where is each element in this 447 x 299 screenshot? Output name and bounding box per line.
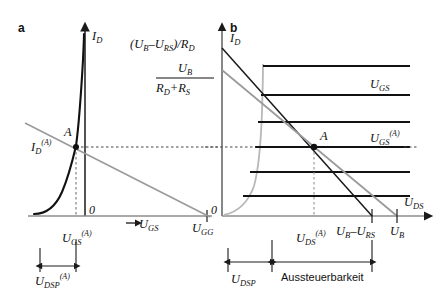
- panel-a: a ID UGS 0 A ID(A) UGS(A) UDSP(A) UGG: [18, 21, 218, 290]
- panel-b-ugs-family-label: UGS: [370, 77, 390, 93]
- panel-b-aussteuerbarkeit-label: Aussteuerbarkeit: [281, 271, 364, 283]
- panel-a-id-value-label: ID(A): [30, 138, 52, 156]
- panel-b-ub-label: UB: [390, 224, 404, 240]
- formula-fraction-denominator: RD+RS: [155, 81, 191, 97]
- panel-b-udsp-label: UDSP: [231, 272, 256, 288]
- panel-a-operating-point-dot: [73, 144, 79, 150]
- panel-a-id-axis-label: ID: [91, 29, 103, 45]
- panel-b-operating-point-label: A: [319, 129, 328, 143]
- formula-fraction-numerator: UB: [178, 61, 192, 77]
- panel-a-ugs-value-label: UGS(A): [62, 229, 92, 247]
- panel-a-ugs-axis-label: UGS: [139, 217, 159, 233]
- formula-top-label: (UB–URS)/RD: [130, 37, 195, 53]
- panel-a-origin-label: 0: [89, 203, 95, 217]
- panel-b: b ID UDS 0 A UGS UGS(A) UDS(A) UB–URS UB…: [205, 21, 425, 288]
- panel-a-operating-point-label: A: [63, 125, 72, 139]
- panel-a-letter: a: [18, 21, 25, 35]
- formula-group: (UB–URS)/RD UB RD+RS: [130, 37, 214, 97]
- panel-b-operating-point-dot: [311, 144, 317, 150]
- panel-b-ugs-family-a-label: UGS(A): [370, 129, 400, 147]
- panel-b-uds-value-label: UDS(A): [296, 229, 326, 247]
- panel-b-ub-minus-urs-label: UB–URS: [336, 224, 376, 240]
- panel-a-udsp-value-label: UDSP(A): [35, 272, 70, 290]
- figure-svg: a ID UGS 0 A ID(A) UGS(A) UDSP(A) UGG (U…: [0, 0, 447, 299]
- panel-a-ugg-label: UGG: [192, 221, 213, 237]
- panel-b-uds-axis-label: UDS: [404, 195, 424, 211]
- panel-b-origin-label: 0: [211, 203, 217, 217]
- figure-root: a ID UGS 0 A ID(A) UGS(A) UDSP(A) UGG (U…: [0, 0, 447, 299]
- panel-a-bias-load-line: [25, 123, 210, 217]
